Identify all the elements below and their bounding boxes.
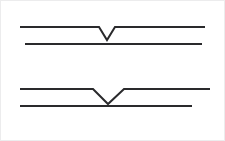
diagram-canvas: Two schematic line diagrams with V-shape… xyxy=(0,0,225,141)
diagram-svg xyxy=(0,0,225,141)
image-frame-border xyxy=(1,1,225,141)
